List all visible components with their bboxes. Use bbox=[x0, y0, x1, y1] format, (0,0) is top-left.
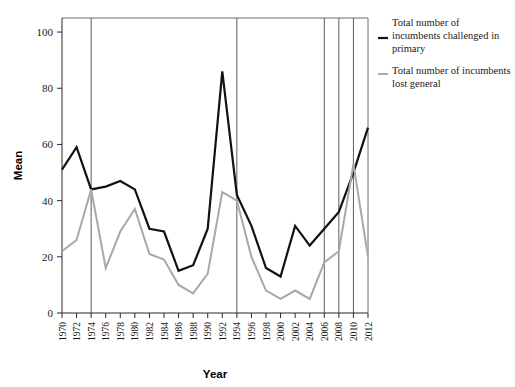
x-tick-label: 1986 bbox=[174, 322, 184, 341]
x-tick-label: 1978 bbox=[116, 322, 126, 341]
x-axis-ticks: 1970197219741976197819801982198419861988… bbox=[58, 313, 374, 341]
y-tick-label: 40 bbox=[42, 195, 54, 207]
reference-lines-group bbox=[91, 18, 353, 313]
y-tick-label: 20 bbox=[42, 251, 54, 263]
x-tick-label: 1972 bbox=[72, 322, 82, 341]
x-tick-label: 2012 bbox=[364, 322, 374, 341]
x-tick-label: 1970 bbox=[58, 322, 68, 341]
x-tick-label: 1974 bbox=[87, 322, 97, 341]
x-tick-label: 1998 bbox=[262, 322, 272, 341]
x-axis-title: Year bbox=[203, 368, 228, 380]
x-tick-label: 1996 bbox=[247, 322, 257, 341]
y-axis-ticks: 020406080100 bbox=[37, 26, 63, 319]
x-tick-label: 1994 bbox=[232, 322, 242, 341]
line-chart-svg: 0204060801001970197219741976197819801982… bbox=[0, 0, 515, 387]
legend-label-0: incumbents challenged in bbox=[392, 30, 500, 41]
y-tick-label: 0 bbox=[48, 307, 54, 319]
series-line-0 bbox=[62, 71, 368, 276]
y-tick-label: 100 bbox=[37, 26, 54, 38]
x-tick-label: 2008 bbox=[334, 322, 344, 341]
y-tick-label: 60 bbox=[42, 138, 54, 150]
x-tick-label: 1982 bbox=[145, 322, 155, 341]
x-tick-label: 2010 bbox=[349, 322, 359, 341]
legend: Total number ofincumbents challenged inp… bbox=[378, 17, 511, 89]
x-tick-label: 1980 bbox=[130, 322, 140, 341]
x-tick-label: 1990 bbox=[203, 322, 213, 341]
x-tick-label: 1988 bbox=[189, 322, 199, 341]
y-tick-label: 80 bbox=[42, 82, 54, 94]
chart-figure: 0204060801001970197219741976197819801982… bbox=[0, 0, 515, 387]
legend-label-1: Total number of incumbents bbox=[392, 65, 511, 76]
legend-label-1: lost general bbox=[392, 78, 441, 89]
legend-label-0: Total number of bbox=[392, 17, 460, 28]
legend-label-0: primary bbox=[392, 43, 426, 54]
y-axis-title: Mean bbox=[12, 151, 24, 180]
x-tick-label: 2004 bbox=[305, 322, 315, 341]
x-tick-label: 1976 bbox=[101, 322, 111, 341]
x-tick-label: 2000 bbox=[276, 322, 286, 341]
x-tick-label: 2006 bbox=[320, 322, 330, 341]
x-tick-label: 2002 bbox=[291, 322, 301, 341]
x-tick-label: 1992 bbox=[218, 322, 228, 341]
x-tick-label: 1984 bbox=[160, 322, 170, 341]
